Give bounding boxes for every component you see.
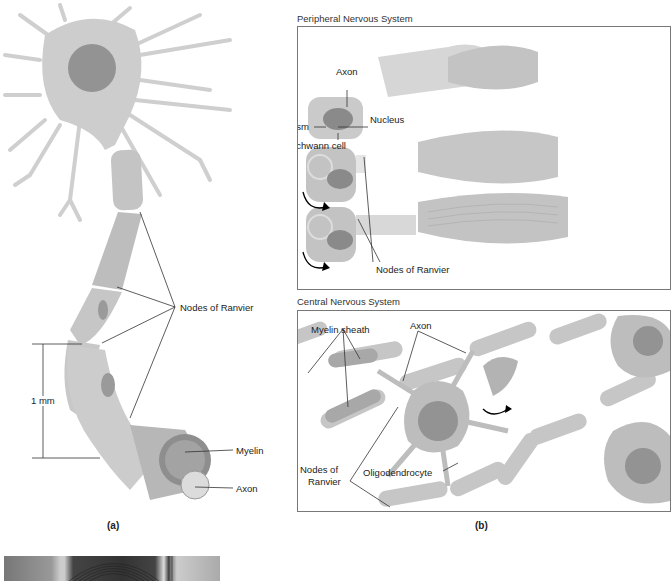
pns-title: Peripheral Nervous System bbox=[297, 13, 413, 24]
label-scale-1mm: 1 mm bbox=[31, 396, 55, 406]
myelin-micrograph bbox=[4, 556, 220, 581]
cns-title: Central Nervous System bbox=[297, 296, 400, 307]
label-axon-a: Axon bbox=[236, 484, 258, 494]
label-pns-cytoplasm: Cytoplasm bbox=[297, 122, 309, 132]
label-myelin: Myelin bbox=[236, 446, 263, 456]
label-cns-nodes-of-ranvier-line1: Nodes of bbox=[300, 465, 338, 475]
label-pns-nodes-of-ranvier: Nodes of Ranvier bbox=[376, 265, 449, 275]
label-nodes-of-ranvier-a: Nodes of Ranvier bbox=[180, 303, 253, 313]
label-pns-schwann-cell: Schwann cell bbox=[297, 141, 346, 151]
label-cns-myelin-sheath: Myelin sheath bbox=[311, 325, 370, 335]
label-cns-oligodendrocyte: Oligodendrocyte bbox=[363, 468, 432, 478]
caption-b: (b) bbox=[475, 520, 488, 531]
label-pns-axon: Axon bbox=[336, 67, 358, 77]
caption-a: (a) bbox=[107, 520, 119, 531]
pns-panel: Axon Cytoplasm Nucleus Schwann cell Node… bbox=[297, 26, 671, 290]
label-pns-nucleus: Nucleus bbox=[370, 115, 404, 125]
label-cns-axon: Axon bbox=[410, 321, 432, 331]
soma-nucleus bbox=[68, 44, 116, 92]
label-cns-nodes-of-ranvier-line2: Ranvier bbox=[308, 477, 341, 487]
cns-illustration bbox=[298, 311, 670, 511]
neuron-illustration bbox=[0, 0, 290, 510]
panel-a-neuron: Nodes of Ranvier 1 mm Myelin Axon bbox=[0, 0, 290, 510]
cns-panel: Myelin sheath Axon Nodes of Ranvier Olig… bbox=[297, 310, 671, 512]
